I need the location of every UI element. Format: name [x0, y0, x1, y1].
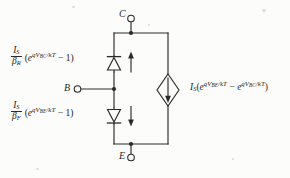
forward-diode-equation: IS βF (eqVBE/kT − 1)	[11, 101, 73, 123]
emitter-terminal-circle	[128, 154, 135, 161]
reverse-diode-exponential: (eqVBC/kT − 1)	[22, 51, 74, 64]
current-source-equation: IS(eqVBE/kT − eqVBC/kT)	[190, 80, 268, 93]
forward-diode-numerator: IS	[11, 101, 22, 112]
base-junction-dot	[112, 87, 116, 91]
reverse-diode-equation: IS βR (eqVBC/kT − 1)	[11, 46, 74, 68]
forward-diode-current-arrow	[128, 106, 134, 127]
emitter-junction-dot	[129, 142, 133, 146]
forward-diode-symbol	[107, 107, 121, 125]
forward-diode-prefactor: IS βF	[11, 101, 22, 123]
forward-diode-exponential: (eqVBE/kT − 1)	[22, 106, 74, 119]
reverse-diode-symbol	[107, 55, 121, 73]
collector-terminal-circle	[128, 15, 135, 22]
reverse-diode-current-arrow	[128, 52, 134, 73]
figure-canvas: C E B IS βR (eqVBC/kT − 1) IS βF (eqVBE/…	[0, 0, 290, 178]
current-source-symbol	[157, 74, 179, 106]
base-terminal-label: B	[64, 82, 70, 93]
reverse-diode-prefactor: IS βR	[11, 46, 22, 68]
reverse-diode-denominator: βR	[11, 57, 22, 67]
collector-junction-dot	[129, 31, 133, 35]
base-terminal-circle	[74, 86, 81, 93]
reverse-diode-numerator: IS	[11, 46, 22, 57]
emitter-terminal-label: E	[119, 150, 125, 161]
forward-diode-denominator: βF	[11, 112, 22, 122]
collector-terminal-label: C	[119, 8, 126, 19]
